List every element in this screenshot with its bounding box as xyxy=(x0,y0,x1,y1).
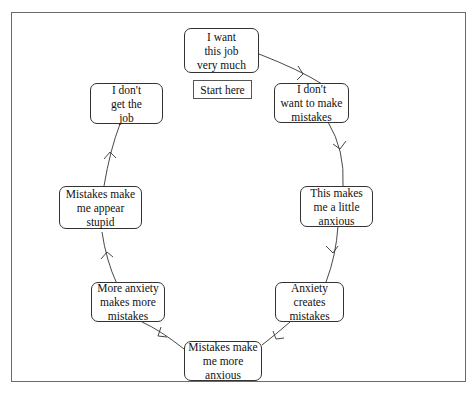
node-label: Mistakes make me appear stupid xyxy=(66,187,135,229)
edge-n3-n4 xyxy=(326,226,338,282)
node-label: This makes me a little anxious xyxy=(310,186,363,228)
node-label: More anxiety makes more mistakes xyxy=(97,281,159,323)
node-label: I don't want to make mistakes xyxy=(281,82,343,124)
arrowhead-icon xyxy=(326,246,338,253)
node-label: Mistakes make me more anxious xyxy=(188,340,257,382)
node-dont-get-job: I don't get the job xyxy=(90,83,163,124)
node-anxiety-creates-mistakes: Anxiety creates mistakes xyxy=(275,282,344,322)
edge-n7-n8 xyxy=(104,124,120,186)
start-here-label: Start here xyxy=(193,80,252,99)
node-want-job: I want this job very much xyxy=(184,28,259,73)
edge-n1-n2 xyxy=(259,54,322,84)
node-no-mistakes: I don't want to make mistakes xyxy=(274,83,349,123)
edge-n4-n5 xyxy=(262,322,290,345)
node-more-anxious: Mistakes make me more anxious xyxy=(184,341,262,381)
node-appear-stupid: Mistakes make me appear stupid xyxy=(59,186,142,229)
edge-n2-n3 xyxy=(328,122,343,186)
arrowhead-icon xyxy=(297,66,303,80)
node-label: I want this job very much xyxy=(197,30,246,72)
node-more-mistakes: More anxiety makes more mistakes xyxy=(91,282,165,322)
edge-n5-n6 xyxy=(142,322,184,349)
node-little-anxious: This makes me a little anxious xyxy=(300,186,373,227)
node-label: I don't get the job xyxy=(111,83,142,125)
edge-n6-n7 xyxy=(102,232,117,284)
start-label-text: Start here xyxy=(200,84,244,96)
node-label: Anxiety creates mistakes xyxy=(289,281,329,323)
